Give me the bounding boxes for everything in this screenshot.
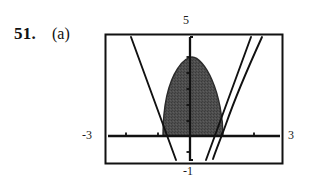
graph-figure [0, 0, 311, 180]
